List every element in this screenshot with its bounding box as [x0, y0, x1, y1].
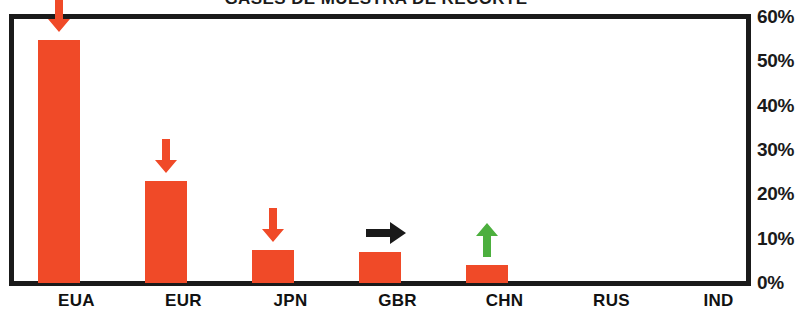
bar-eua	[38, 40, 80, 283]
bar-slot-ind	[656, 19, 763, 283]
bar-eur	[145, 181, 187, 283]
arrow-down-icon	[262, 208, 284, 242]
bar-slot-eua	[14, 19, 121, 283]
x-tick-label-jpn: JPN	[237, 291, 344, 311]
x-tick-label-eua: EUA	[23, 291, 130, 311]
bar-slot-gbr	[335, 19, 442, 283]
y-tick-label-20: 20%	[757, 183, 804, 205]
bar-jpn	[252, 250, 294, 283]
y-tick-label-40: 40%	[757, 95, 804, 117]
arrow-down-icon	[48, 0, 70, 32]
bar-chn	[466, 265, 508, 283]
y-tick-label-30: 30%	[757, 139, 804, 161]
y-tick-label-10: 10%	[757, 228, 804, 250]
x-tick-label-gbr: GBR	[344, 291, 451, 311]
x-tick-label-chn: CHN	[451, 291, 558, 311]
y-axis: 0%10%20%30%40%50%60%	[757, 0, 804, 326]
x-tick-label-rus: RUS	[558, 291, 665, 311]
bar-slot-eur	[121, 19, 228, 283]
bar-slot-rus	[549, 19, 656, 283]
y-tick-label-60: 60%	[757, 6, 804, 28]
bar-chart: GASES DE MUESTRA DE RECORTE 0%10%20%30%4…	[0, 0, 804, 326]
arrow-right-icon	[366, 222, 406, 244]
x-tick-label-ind: IND	[665, 291, 772, 311]
y-tick-label-50: 50%	[757, 50, 804, 72]
arrow-up-icon	[476, 223, 498, 257]
arrow-down-icon	[155, 139, 177, 173]
x-tick-label-eur: EUR	[130, 291, 237, 311]
bar-slot-jpn	[228, 19, 335, 283]
chart-title: GASES DE MUESTRA DE RECORTE	[0, 0, 752, 6]
x-axis: EUAEURJPNGBRCHNRUSIND	[23, 291, 752, 319]
bar-gbr	[359, 252, 401, 283]
bar-slot-chn	[442, 19, 549, 283]
plot-area	[14, 19, 746, 283]
